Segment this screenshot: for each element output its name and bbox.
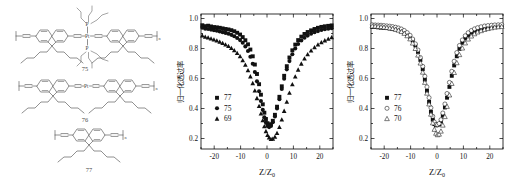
data-point: [255, 96, 260, 100]
y-tick-label: 0.6: [189, 75, 198, 83]
data-point: [439, 129, 444, 133]
x-tick-label: -10: [236, 153, 246, 161]
data-point: [277, 125, 282, 129]
data-point: [316, 42, 321, 46]
x-axis-label-sub: 0: [442, 172, 445, 178]
x-tick-label: -20: [209, 153, 219, 161]
data-point: [273, 135, 278, 139]
series-77: [200, 23, 333, 127]
data-point: [323, 27, 327, 31]
data-point: [282, 77, 286, 81]
data-point: [243, 63, 248, 67]
data-point: [257, 89, 261, 93]
data-point: [427, 96, 431, 100]
data-point: [280, 87, 284, 91]
data-point: [309, 28, 313, 32]
plot-frame: [371, 14, 503, 149]
data-point: [423, 74, 427, 78]
data-point: [259, 99, 263, 103]
data-point: [261, 108, 265, 112]
structure-76: Pt n 76: [19, 80, 159, 123]
data-point: [285, 67, 289, 71]
data-point: [437, 121, 441, 125]
plot-frame: [201, 14, 333, 149]
data-point: [253, 70, 257, 74]
data-point: [243, 44, 247, 48]
x-tick-label: 10: [460, 153, 468, 161]
data-point: [246, 68, 251, 72]
atom-label-p-bottom: P: [86, 45, 89, 51]
data-point: [296, 42, 300, 46]
x-tick-label: 0: [435, 153, 439, 161]
data-point: [279, 117, 284, 121]
data-point: [251, 62, 255, 66]
legend-label-69: 69: [224, 114, 232, 123]
data-point: [439, 118, 443, 122]
repeat-index-75: n: [159, 36, 162, 41]
data-point: [385, 96, 389, 100]
structure-75: Pt P P: [16, 6, 162, 72]
atom-label-p-top: P: [86, 21, 89, 27]
y-axis-label: 归一化透过率: [176, 60, 185, 103]
data-point: [275, 106, 279, 110]
series-77: [370, 24, 503, 127]
x-tick-label: 0: [265, 153, 269, 161]
data-point: [385, 106, 389, 110]
structure-label-77: 77: [86, 166, 93, 173]
data-point: [259, 93, 263, 97]
data-point: [269, 124, 273, 128]
y-tick-label: 1.0: [189, 15, 198, 23]
data-point: [275, 131, 280, 135]
data-point: [271, 120, 275, 124]
x-axis-label-sub: 0: [272, 172, 275, 178]
y-tick-label: 0.4: [359, 105, 368, 113]
data-point: [253, 88, 258, 92]
data-point: [284, 99, 289, 103]
data-point: [293, 74, 298, 78]
legend-label-77: 77: [224, 93, 232, 102]
atom-label-pt: Pt: [85, 33, 90, 39]
data-point: [248, 55, 252, 59]
structure-77: n 77: [55, 129, 128, 173]
zscan-chart-left-panel: -20-10010200.20.40.60.81.0Z/Z0归一化透过率7775…: [170, 0, 340, 191]
y-tick-label: 0.8: [189, 45, 198, 53]
y-tick-label: 1.0: [359, 15, 368, 23]
data-point: [330, 26, 334, 30]
legend-label-77: 77: [394, 93, 402, 102]
data-point: [215, 106, 219, 110]
figure-root: Pt P P: [0, 0, 510, 191]
data-point: [246, 49, 250, 53]
y-tick-label: 0.6: [359, 75, 368, 83]
data-point: [250, 81, 255, 85]
data-point: [293, 46, 297, 50]
data-point: [290, 82, 295, 86]
data-point: [287, 90, 292, 94]
x-tick-label: -20: [379, 153, 389, 161]
legend-label-70: 70: [394, 114, 402, 123]
data-point: [255, 79, 259, 83]
data-point: [264, 129, 269, 133]
data-point: [385, 116, 390, 120]
y-tick-label: 0.4: [189, 105, 198, 113]
legend-label-75: 75: [224, 104, 232, 113]
chemical-structures-panel: Pt P P: [0, 0, 170, 191]
zscan-chart-left-svg: -20-10010200.20.40.60.81.0Z/Z0归一化透过率7775…: [170, 0, 340, 191]
y-tick-label: 0.8: [359, 45, 368, 53]
data-point: [287, 56, 291, 60]
y-tick-label: 0.2: [189, 135, 198, 143]
data-point: [296, 67, 301, 71]
data-point: [460, 38, 464, 42]
y-axis-label: 归一化透过率: [346, 60, 355, 103]
series-70: [370, 24, 504, 137]
data-point: [287, 59, 291, 63]
data-point: [277, 97, 281, 101]
structure-label-75: 75: [82, 65, 88, 72]
zscan-chart-right-panel: -20-10010200.20.40.60.81.0Z/Z0归一化透过率7776…: [340, 0, 510, 191]
x-tick-label: -10: [406, 153, 416, 161]
zscan-chart-right-svg: -20-10010200.20.40.60.81.0Z/Z0归一化透过率7776…: [340, 0, 510, 191]
data-point: [215, 116, 220, 120]
data-point: [282, 109, 287, 113]
data-point: [455, 51, 459, 55]
data-point: [425, 85, 429, 89]
data-point: [240, 58, 245, 62]
